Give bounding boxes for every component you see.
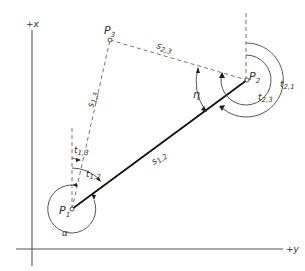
t23-arrow-icon xyxy=(219,72,225,78)
angle-t12-label: t1,2 xyxy=(86,169,101,181)
geodetic-diagram: +x +y xyxy=(0,0,305,271)
angle-t23-label: t2,3 xyxy=(258,92,273,104)
angle-alpha-label: α xyxy=(62,228,68,238)
t13-arrow-icon xyxy=(76,158,81,162)
angle-t13-label: t1,3 xyxy=(74,145,89,157)
x-axis-label: +x xyxy=(26,19,40,29)
angle-eta-label: η xyxy=(193,88,200,101)
alpha-arrow-icon xyxy=(91,194,96,200)
angles-p2 xyxy=(196,43,283,117)
line-s23 xyxy=(110,40,247,80)
angles-p1 xyxy=(48,158,101,233)
point-p2-label: P2 xyxy=(249,70,261,85)
point-p1-marker xyxy=(70,207,74,211)
alpha-start-arrow-icon xyxy=(72,183,77,187)
eta-top-arrow-icon xyxy=(196,67,200,73)
distance-s12-label: s1,2 xyxy=(149,149,169,168)
y-axis-label: +y xyxy=(286,244,300,254)
points xyxy=(70,38,249,211)
distance-s13-label: s1,3 xyxy=(85,91,100,109)
point-p3-label: P3 xyxy=(104,24,115,39)
diagram-canvas: +x +y xyxy=(0,0,305,271)
line-s13 xyxy=(72,40,110,209)
point-p1-label: P1 xyxy=(59,204,70,219)
